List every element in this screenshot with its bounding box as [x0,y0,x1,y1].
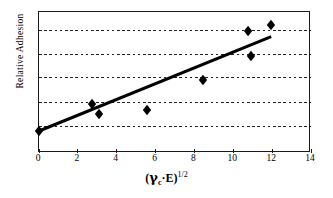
x-tick-label: 14 [305,153,315,163]
x-tick-label: 8 [191,153,196,163]
x-axis-title: (γc·E)1/2 [0,170,333,187]
x-tick-label: 0 [36,153,41,163]
data-point-marker [247,51,255,61]
gamma-symbol: γ [149,170,158,185]
y-axis-title: Relative Adhesion [15,0,25,111]
x-tick-label: 4 [113,153,118,163]
data-point-marker [267,20,275,30]
data-point-marker [143,105,151,115]
x-tick-label: 12 [266,153,276,163]
data-point-marker [95,109,103,119]
data-point-marker [244,26,252,36]
plot-canvas [39,12,311,153]
x-title-exponent: 1/2 [177,170,187,179]
data-point-marker [35,126,43,136]
x-tick-label: 6 [152,153,157,163]
gridlines-group [39,30,311,153]
trend-line [39,37,271,131]
trend-line-segment [39,37,271,131]
plot-area [38,11,310,152]
x-axis-tick-labels: 02468101214 [38,153,310,169]
data-point-marker [199,75,207,85]
chart-figure: Relative Adhesion 02468101214 (γc·E)1/2 [0,0,333,198]
x-tick-label: 2 [74,153,79,163]
x-tick-label: 10 [228,153,238,163]
